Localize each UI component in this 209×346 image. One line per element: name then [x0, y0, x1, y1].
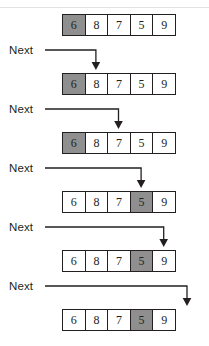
array-traversal-figure: 68759Next68759Next68759Next68759Next6875… — [0, 0, 209, 346]
next-pointer-arrow — [0, 0, 209, 30]
array-row: 68759 — [62, 309, 176, 331]
array-cell: 6 — [62, 309, 86, 331]
array-cell: 8 — [85, 309, 109, 331]
array-cell: 7 — [107, 309, 131, 331]
array-cell: 9 — [152, 309, 176, 331]
array-cell-highlighted: 5 — [130, 309, 154, 331]
